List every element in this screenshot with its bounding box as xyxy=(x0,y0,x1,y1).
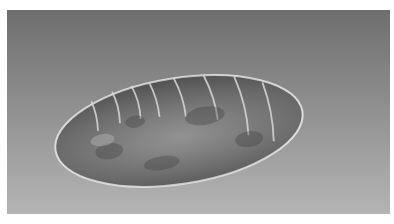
pupa-image xyxy=(7,10,390,214)
photo-panel xyxy=(7,10,390,214)
